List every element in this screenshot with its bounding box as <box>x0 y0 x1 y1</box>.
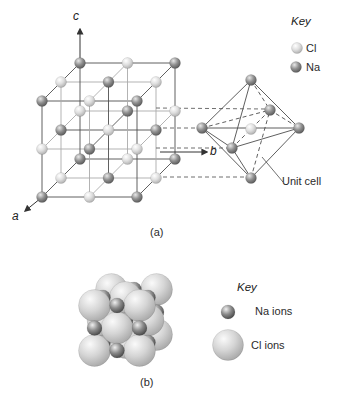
na-sphere <box>151 125 162 136</box>
key-b-na-label: Na ions <box>255 306 292 317</box>
octahedron-edge-hidden <box>202 110 270 128</box>
cl-sphere <box>132 144 143 155</box>
na-sphere <box>75 58 86 69</box>
na-sphere <box>197 123 208 134</box>
key-cl-ion-sphere <box>213 330 244 361</box>
cl-sphere <box>122 58 133 69</box>
unit-cell-pointer-line <box>262 157 283 182</box>
cl-sphere <box>151 77 162 88</box>
na-sphere <box>84 144 95 155</box>
axis-a-label: a <box>12 210 19 222</box>
cl-sphere <box>84 192 95 203</box>
cl-sphere <box>56 77 67 88</box>
na-sphere <box>246 75 257 86</box>
na-sphere <box>37 96 48 107</box>
na-sphere <box>103 173 114 184</box>
cl-sphere <box>37 144 48 155</box>
key-a-cl-label: Cl <box>306 43 316 54</box>
cl-sphere <box>75 106 86 117</box>
na-sphere <box>56 125 67 136</box>
key-a-na-label: Na <box>306 62 320 73</box>
na-sphere <box>265 105 276 116</box>
octahedron-edge <box>251 80 299 128</box>
nacl-crystal-figure: c a b Key Cl Na Unit cell (a) Key Na ion… <box>0 0 350 410</box>
cl-sphere <box>84 96 95 107</box>
cl-sphere <box>151 173 162 184</box>
na-ion-sphere <box>110 298 125 313</box>
axis-c-label: c <box>73 10 79 22</box>
na-ion-sphere <box>132 321 147 336</box>
na-sphere <box>227 143 238 154</box>
crystal-svg <box>0 0 350 410</box>
na-sphere <box>170 58 181 69</box>
cl-sphere <box>103 125 114 136</box>
cl-sphere <box>246 124 257 135</box>
cl-sphere <box>56 173 67 184</box>
key-na-ion-sphere <box>221 305 235 319</box>
key-a-title: Key <box>291 16 311 28</box>
octahedron-edge <box>202 80 251 128</box>
na-sphere <box>122 106 133 117</box>
octahedron-edge <box>232 80 251 148</box>
na-sphere <box>246 173 257 184</box>
na-sphere <box>132 96 143 107</box>
cl-sphere <box>170 106 181 117</box>
axis-b-label: b <box>210 145 217 157</box>
na-sphere <box>37 192 48 203</box>
na-sphere <box>75 154 86 165</box>
na-sphere <box>170 154 181 165</box>
na-sphere <box>294 123 305 134</box>
cl-ion-sphere <box>101 312 133 344</box>
na-ion-sphere <box>87 321 102 336</box>
unit-cell-label: Unit cell <box>282 176 321 187</box>
panel-b-label: (b) <box>140 377 153 388</box>
key-b-title: Key <box>237 282 257 294</box>
cl-sphere <box>122 154 133 165</box>
panel-a-label: (a) <box>150 227 163 238</box>
na-ion-sphere <box>110 343 125 358</box>
na-sphere <box>132 192 143 203</box>
key-cl-sphere <box>292 43 303 54</box>
key-na-sphere <box>291 62 302 73</box>
key-b-cl-label: Cl ions <box>251 340 285 351</box>
na-sphere <box>103 77 114 88</box>
